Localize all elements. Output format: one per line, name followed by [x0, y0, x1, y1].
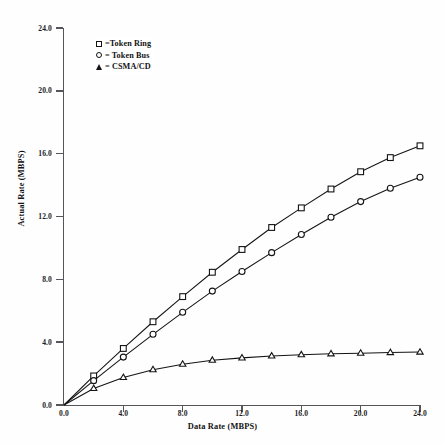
data-point	[269, 225, 275, 231]
x-tick-label: 12.0	[222, 409, 262, 418]
data-point	[328, 214, 334, 220]
data-point	[328, 350, 334, 355]
x-tick-label: 8.0	[163, 409, 203, 418]
plot-area	[64, 28, 420, 405]
x-tick-label: 24.0	[400, 409, 440, 418]
triangle-marker-icon	[96, 61, 105, 72]
y-axis-title: Actual Rate (MBPS)	[17, 124, 26, 254]
data-point	[209, 269, 215, 275]
chart-figure: 0.04.08.012.016.020.024.0 0.04.08.012.01…	[0, 0, 445, 445]
data-point	[180, 294, 186, 300]
data-series-layer	[64, 28, 420, 405]
data-point	[120, 354, 126, 360]
x-tick-label: 0.0	[44, 409, 84, 418]
x-tick-label: 16.0	[281, 409, 321, 418]
series-csma-cd	[64, 349, 423, 405]
legend-label-token-ring: =Token Ring	[105, 39, 151, 48]
data-point	[328, 186, 334, 192]
data-point	[180, 309, 186, 315]
y-tick	[56, 90, 63, 91]
data-point	[120, 346, 126, 352]
y-tick-label: 8.0	[18, 275, 52, 284]
data-point	[239, 247, 245, 253]
data-point	[239, 268, 245, 274]
legend-item-token-bus: = Token Bus	[96, 50, 151, 62]
data-point	[269, 250, 275, 256]
data-point	[150, 319, 156, 325]
y-tick	[56, 153, 63, 154]
y-tick	[56, 27, 63, 28]
data-point	[358, 169, 364, 175]
square-marker-icon	[96, 38, 105, 49]
data-point	[357, 350, 363, 355]
y-tick	[56, 279, 63, 280]
data-point	[417, 174, 423, 180]
series-line	[64, 146, 420, 405]
series-line	[64, 177, 420, 405]
circle-marker-icon	[96, 50, 105, 61]
y-tick	[56, 341, 63, 342]
x-tick-label: 4.0	[103, 409, 143, 418]
legend-label-csmacd: = CSMA/CD	[105, 62, 151, 71]
data-point	[387, 155, 393, 161]
chart-legend: =Token Ring = Token Bus = CSMA/CD	[94, 36, 154, 75]
data-point	[268, 353, 274, 358]
data-point	[387, 349, 393, 354]
legend-label-token-bus: = Token Bus	[105, 51, 149, 60]
x-tick-label: 20.0	[341, 409, 381, 418]
y-tick-label: 20.0	[18, 86, 52, 95]
data-point	[387, 185, 393, 191]
data-point	[298, 232, 304, 238]
y-tick-label: 24.0	[18, 24, 52, 33]
legend-item-token-ring: =Token Ring	[96, 38, 151, 50]
data-point	[358, 199, 364, 205]
data-point	[417, 349, 423, 354]
legend-item-csmacd: = CSMA/CD	[96, 61, 151, 73]
y-tick-label: 4.0	[18, 338, 52, 347]
data-point	[298, 205, 304, 211]
data-point	[417, 143, 423, 149]
y-tick	[56, 216, 63, 217]
data-point	[150, 331, 156, 337]
data-point	[91, 378, 97, 384]
series-token-bus	[64, 174, 423, 405]
data-point	[209, 288, 215, 294]
y-tick	[56, 404, 63, 405]
x-axis-title: Data Rate (MBPS)	[0, 422, 445, 431]
data-point	[298, 351, 304, 356]
